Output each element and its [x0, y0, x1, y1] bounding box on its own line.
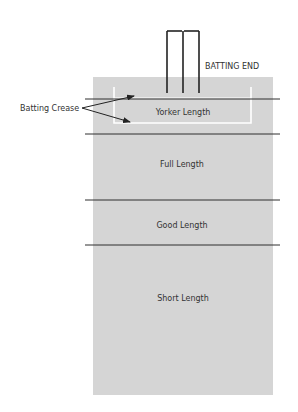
zone-label-good: Good Length: [156, 222, 207, 230]
zone-label-yorker: Yorker Length: [156, 109, 211, 117]
pitch-area: [93, 77, 273, 395]
zone-label-full: Full Length: [160, 161, 204, 169]
batting-end-label: BATTING END: [205, 63, 259, 71]
cricket-pitch-length-diagram: BATTING END Batting Crease Yorker Length…: [0, 0, 298, 412]
zone-label-short: Short Length: [157, 295, 209, 303]
batting-crease-label: Batting Crease: [20, 105, 79, 113]
